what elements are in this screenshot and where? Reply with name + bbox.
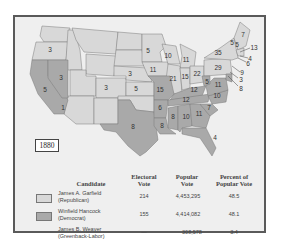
label-vt: 5	[230, 39, 234, 46]
label-md: 8	[239, 85, 243, 92]
percent-vote: 48.5	[216, 193, 252, 199]
candidate-name: James A. Garfield	[58, 190, 101, 197]
label-mi: 11	[183, 56, 190, 63]
label-mn: 5	[146, 47, 150, 54]
label-ne: 3	[128, 70, 132, 77]
state-co	[96, 78, 126, 98]
label-al: 10	[182, 113, 190, 120]
label-ny: 35	[214, 49, 222, 56]
state-ks	[126, 82, 154, 96]
header-candidate: Candidate	[66, 180, 116, 187]
table-row: James B. Weaver (Greenback-Labor) — 308,…	[36, 226, 258, 242]
state-wa	[40, 26, 70, 42]
label-nv: 3	[59, 74, 63, 81]
label-pa: 29	[214, 64, 222, 71]
header-percent-line2: Popular Vote	[208, 180, 260, 187]
label-nc: 10	[213, 92, 221, 99]
label-wv: 5	[205, 78, 209, 85]
state-nm	[94, 98, 118, 124]
candidate-name: James B. Weaver	[58, 226, 104, 233]
electoral-vote: 155	[128, 211, 160, 217]
label-oh: 22	[193, 70, 201, 77]
header-popular-line2: Vote	[164, 180, 210, 187]
label-wi: 10	[164, 52, 172, 59]
header-percent-line1: Percent of	[208, 173, 260, 180]
candidate-name: Winfield Hancock	[58, 208, 101, 215]
percent-vote: 48.1	[216, 211, 252, 217]
label-la: 8	[160, 122, 164, 129]
electoral-vote: 214	[128, 193, 160, 199]
label-in: 15	[181, 73, 189, 80]
label-ct: 6	[246, 60, 250, 67]
label-ga: 11	[196, 110, 203, 117]
state-nd	[116, 32, 142, 50]
legend-swatch-republican	[36, 194, 52, 203]
label-ks: 5	[134, 85, 138, 92]
label-sc: 7	[207, 104, 211, 111]
candidate-cell: Winfield Hancock (Democrat)	[58, 208, 101, 221]
popular-vote: 4,414,082	[166, 211, 210, 217]
label-mo: 15	[156, 86, 164, 93]
legend-swatch-democrat	[36, 212, 52, 221]
header-popular-line1: Popular	[164, 173, 210, 180]
label-nj: 9	[240, 69, 244, 76]
header-electoral-line2: Vote	[124, 180, 164, 187]
state-fl	[182, 128, 216, 156]
electoral-vote: —	[128, 229, 160, 235]
percent-vote: 3.4	[216, 229, 252, 235]
state-md-de	[226, 74, 232, 82]
popular-vote: 308,578	[170, 229, 214, 235]
candidate-party: (Republican)	[58, 197, 101, 204]
table-row: James A. Garfield (Republican) 214 4,453…	[36, 190, 258, 206]
label-co: 3	[104, 84, 108, 91]
label-fl: 4	[213, 134, 217, 141]
label-tn: 12	[182, 96, 190, 103]
candidate-cell: James B. Weaver (Greenback-Labor)	[58, 226, 104, 239]
label-ca-split: 1	[61, 104, 65, 111]
table-row: Winfield Hancock (Democrat) 155 4,414,08…	[36, 208, 258, 224]
header-popular: Popular Vote	[164, 173, 210, 187]
label-me: 7	[241, 31, 245, 38]
label-va: 11	[215, 81, 222, 88]
label-ma: 13	[250, 44, 258, 51]
popular-vote: 4,453,295	[166, 193, 210, 199]
label-ca: 5	[43, 86, 47, 93]
label-tx: 8	[131, 123, 135, 130]
header-electoral: Electoral Vote	[124, 173, 164, 187]
header-percent: Percent of Popular Vote	[208, 173, 260, 187]
label-de: 3	[239, 76, 243, 83]
label-ms: 8	[171, 113, 175, 120]
label-or: 3	[48, 46, 52, 53]
label-ky: 12	[190, 86, 198, 93]
year-label: 1880	[35, 139, 59, 152]
state-wy	[86, 54, 116, 76]
label-il: 21	[169, 75, 177, 82]
candidate-party: (Democrat)	[58, 215, 101, 222]
header-electoral-line1: Electoral	[124, 173, 164, 180]
state-az	[64, 96, 94, 124]
candidate-cell: James A. Garfield (Republican)	[58, 190, 101, 203]
label-ar: 6	[158, 104, 162, 111]
candidate-party: (Greenback-Labor)	[58, 233, 104, 240]
state-sd	[114, 50, 144, 66]
label-nh: 5	[235, 41, 239, 48]
label-ia: 11	[150, 66, 157, 73]
